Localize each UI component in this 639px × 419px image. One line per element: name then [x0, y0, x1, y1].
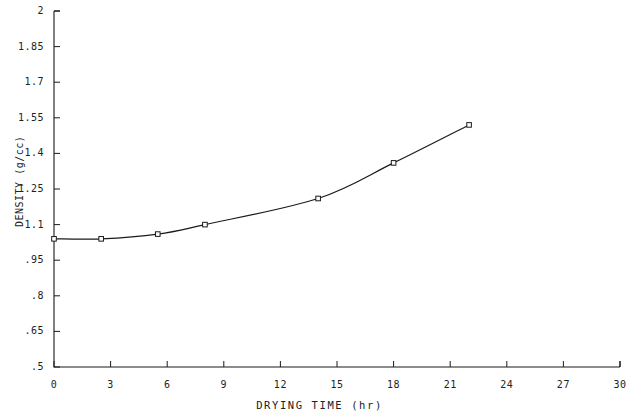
- x-tick-label: 0: [34, 380, 74, 390]
- data-point-marker: [52, 237, 57, 242]
- y-tick-label: 2: [0, 6, 44, 16]
- data-line: [54, 125, 469, 239]
- x-tick-label: 24: [487, 380, 527, 390]
- chart-canvas: [0, 0, 639, 419]
- density-vs-drying-time-chart: DENSITY (g/cc) DRYING TIME (hr) 21.851.7…: [0, 0, 639, 419]
- y-tick-label: 1.7: [0, 77, 44, 87]
- y-tick-label: .5: [0, 362, 44, 372]
- x-tick-label: 12: [260, 380, 300, 390]
- data-point-marker: [155, 232, 160, 237]
- y-tick-label: .95: [0, 255, 44, 265]
- x-tick-label: 27: [543, 380, 583, 390]
- x-tick-label: 15: [317, 380, 357, 390]
- x-tick-label: 18: [374, 380, 414, 390]
- y-tick-label: .65: [0, 326, 44, 336]
- x-axis-title: DRYING TIME (hr): [0, 399, 639, 411]
- y-tick-label: 1.25: [0, 184, 44, 194]
- x-tick-label: 21: [430, 380, 470, 390]
- y-tick-label: 1.4: [0, 148, 44, 158]
- x-tick-label: 3: [91, 380, 131, 390]
- data-point-marker: [391, 161, 396, 166]
- x-tick-label: 30: [600, 380, 639, 390]
- y-tick-label: 1.55: [0, 113, 44, 123]
- x-tick-label: 6: [147, 380, 187, 390]
- y-tick-label: 1.1: [0, 220, 44, 230]
- data-point-marker: [316, 196, 321, 201]
- data-point-marker: [467, 123, 472, 128]
- data-point-marker: [99, 237, 104, 242]
- x-tick-label: 9: [204, 380, 244, 390]
- y-tick-label: 1.85: [0, 42, 44, 52]
- y-tick-label: .8: [0, 291, 44, 301]
- axis-frame: [54, 11, 620, 367]
- data-point-marker: [203, 222, 208, 227]
